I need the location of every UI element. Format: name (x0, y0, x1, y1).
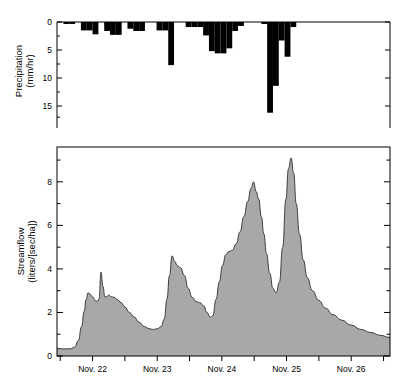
precipitation-y-tick-label: 5 (47, 45, 52, 55)
streamflow-x-tick-label: Nov. 24 (208, 364, 237, 374)
streamflow-area-fill (57, 158, 390, 356)
precipitation-bar (273, 22, 279, 86)
precipitation-bar (221, 22, 227, 53)
precipitation-bar (93, 22, 99, 34)
precipitation-bar (267, 22, 273, 113)
precipitation-bar (232, 22, 238, 31)
hydrology-figure: 051015Precipitation(mm/hr)02468Nov. 22No… (0, 0, 410, 390)
streamflow-y-axis-title-line2: (liters/[sec/ha]) (26, 220, 37, 282)
precipitation-bar (209, 22, 215, 51)
precipitation-bar (203, 22, 209, 35)
streamflow-y-axis-title-line1: Streamflow (15, 228, 26, 276)
precipitation-y-axis-title: Precipitation(mm/hr) (13, 45, 35, 97)
precipitation-y-axis-title-line2: (mm/hr) (24, 54, 35, 87)
precipitation-bar (285, 22, 291, 57)
precipitation-bar (191, 22, 197, 27)
streamflow-y-tick-label: 0 (47, 351, 52, 361)
precipitation-bar (290, 22, 296, 27)
precipitation-bar (139, 22, 145, 31)
streamflow-y-tick-label: 2 (47, 307, 52, 317)
precipitation-bar (116, 22, 122, 35)
precipitation-panel: 051015Precipitation(mm/hr) (13, 17, 390, 128)
precipitation-bar (110, 22, 116, 35)
precipitation-bar (215, 22, 221, 53)
precipitation-y-tick-label: 15 (43, 101, 53, 111)
precipitation-bar (168, 22, 174, 65)
streamflow-x-tick-label: Nov. 22 (78, 364, 107, 374)
precipitation-bar (238, 22, 244, 26)
streamflow-x-tick-label: Nov. 26 (337, 364, 366, 374)
precipitation-y-tick-label: 10 (43, 73, 53, 83)
precipitation-y-tick-label: 0 (47, 17, 52, 27)
streamflow-x-tick-label: Nov. 23 (143, 364, 172, 374)
streamflow-y-tick-label: 6 (47, 220, 52, 230)
streamflow-y-tick-label: 4 (47, 264, 52, 274)
streamflow-x-tick-label: Nov. 25 (272, 364, 301, 374)
streamflow-y-axis-title: Streamflow(liters/[sec/ha]) (15, 220, 37, 282)
precipitation-bar (162, 22, 168, 30)
precipitation-bar (104, 22, 110, 31)
precipitation-bar (186, 22, 192, 27)
streamflow-y-tick-label: 8 (47, 177, 52, 187)
precipitation-bar (133, 22, 139, 31)
precipitation-bar (197, 22, 203, 27)
precipitation-bar (81, 22, 87, 30)
precipitation-bar (87, 22, 93, 30)
streamflow-panel: 02468Nov. 22Nov. 23Nov. 24Nov. 25Nov. 26… (15, 147, 390, 374)
precipitation-bar (279, 22, 285, 40)
figure-canvas: 051015Precipitation(mm/hr)02468Nov. 22No… (0, 0, 410, 390)
precipitation-bar (157, 22, 163, 30)
precipitation-bar (226, 22, 232, 48)
precipitation-bar (127, 22, 133, 29)
precipitation-bars (63, 22, 296, 113)
precipitation-y-axis-title-line1: Precipitation (13, 45, 24, 97)
